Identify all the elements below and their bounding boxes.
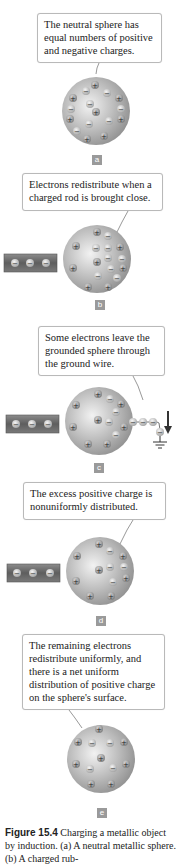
svg-text:−: − [107, 548, 113, 556]
svg-text:−: − [13, 421, 19, 429]
svg-text:−: − [106, 118, 112, 126]
svg-text:+: + [88, 781, 94, 789]
svg-text:−: − [89, 740, 95, 748]
svg-text:−: − [107, 564, 113, 572]
arrow-down-icon [164, 411, 172, 434]
svg-text:−: − [86, 121, 92, 129]
svg-text:−: − [119, 256, 125, 264]
svg-text:−: − [110, 579, 116, 587]
svg-text:+: + [120, 265, 126, 273]
svg-text:−: − [113, 432, 119, 440]
panel-a: The neutral sphere has equal numbers of … [0, 0, 179, 170]
svg-text:+: + [70, 265, 76, 273]
svg-text:+: + [121, 424, 127, 432]
svg-text:−: − [113, 409, 119, 417]
svg-text:−: − [140, 419, 146, 427]
panel-label-b: b [95, 300, 105, 310]
sphere-diagram-e: + + − − + + + + − − + + [0, 634, 179, 824]
panel-c: Some electrons leave the grounded sphere… [0, 324, 179, 494]
svg-text:−: − [130, 419, 136, 427]
svg-text:+: + [70, 424, 76, 432]
svg-text:+: + [95, 417, 101, 425]
svg-text:+: + [117, 244, 123, 252]
svg-text:−: − [68, 106, 74, 114]
panel-label-c: c [94, 463, 104, 473]
svg-text:+: + [96, 726, 102, 734]
svg-text:+: + [75, 739, 81, 747]
panel-label-e: e [97, 808, 107, 818]
svg-text:−: − [87, 766, 93, 774]
svg-text:+: + [94, 259, 100, 267]
svg-text:−: − [47, 570, 53, 578]
svg-text:−: − [107, 396, 113, 404]
svg-text:+: + [94, 229, 100, 237]
svg-text:+: + [73, 578, 79, 586]
svg-text:+: + [105, 284, 111, 292]
svg-text:+: + [92, 82, 98, 90]
panel-d: The excess positive charge is nonuniform… [0, 482, 179, 652]
svg-text:−: − [83, 88, 89, 96]
svg-text:−: − [43, 260, 49, 268]
svg-text:−: − [107, 740, 113, 748]
svg-text:+: + [73, 761, 79, 769]
svg-text:+: + [70, 95, 76, 103]
svg-text:−: − [27, 260, 33, 268]
svg-text:−: − [105, 255, 111, 263]
svg-text:−: − [87, 101, 93, 109]
svg-text:+: + [93, 109, 99, 117]
panel-label-d: d [96, 616, 106, 626]
charged-rod: − − − [7, 564, 60, 582]
panel-label-a: a [92, 155, 102, 165]
svg-text:+: + [101, 133, 107, 141]
svg-text:−: − [93, 245, 99, 253]
svg-text:−: − [105, 233, 111, 241]
svg-text:+: + [73, 402, 79, 410]
sphere-diagram-b: − − − + − + − − + + − − + − + − − + + [0, 170, 179, 340]
svg-text:+: + [87, 593, 93, 601]
svg-text:−: − [110, 765, 116, 773]
svg-text:−: − [74, 128, 80, 136]
svg-text:+: + [116, 95, 122, 103]
svg-text:−: − [95, 273, 101, 281]
departing-electrons: − − − − [129, 418, 164, 437]
svg-text:−: − [105, 245, 111, 253]
svg-text:+: + [108, 781, 114, 789]
svg-text:+: + [85, 441, 91, 449]
svg-text:+: + [74, 553, 80, 561]
figure-number: Figure 15.4 [5, 827, 58, 838]
sphere-diagram-d: − − − + − + + − − + + + − + + [0, 482, 179, 652]
svg-text:+: + [95, 391, 101, 399]
svg-text:+: + [120, 553, 126, 561]
svg-text:+: + [96, 567, 102, 575]
panel-e: The remaining electrons redistribute uni… [0, 634, 179, 824]
svg-text:−: − [118, 106, 124, 114]
svg-text:+: + [123, 575, 129, 583]
svg-text:+: + [121, 739, 127, 747]
charged-rod: − − − [4, 254, 57, 272]
svg-text:+: + [85, 284, 91, 292]
svg-text:−: − [29, 421, 35, 429]
sphere-diagram-c: − − − − − − − + − + [0, 324, 179, 494]
svg-text:−: − [114, 275, 120, 283]
svg-text:−: − [30, 570, 36, 578]
svg-text:+: + [84, 136, 90, 144]
sphere-diagram-a: + − − + + − − − + + − − + − + + [0, 0, 179, 170]
svg-text:−: − [104, 90, 110, 98]
svg-text:+: + [96, 541, 102, 549]
svg-text:+: + [67, 116, 73, 124]
charged-rod: − − − [6, 415, 59, 433]
svg-text:−: − [121, 564, 127, 572]
svg-text:−: − [157, 429, 163, 437]
ground-wire: − − − − [129, 411, 172, 448]
svg-text:+: + [108, 593, 114, 601]
svg-text:+: + [118, 116, 124, 124]
svg-text:−: − [106, 419, 112, 427]
svg-text:−: − [108, 266, 114, 274]
svg-text:+: + [104, 441, 110, 449]
svg-text:−: − [12, 260, 18, 268]
figure-caption: Figure 15.4 Charging a metallic object b… [5, 826, 177, 865]
svg-text:+: + [123, 761, 129, 769]
panel-b: Electrons redistribute when a charged ro… [0, 170, 179, 340]
svg-text:−: − [14, 570, 20, 578]
svg-text:−: − [150, 419, 156, 427]
